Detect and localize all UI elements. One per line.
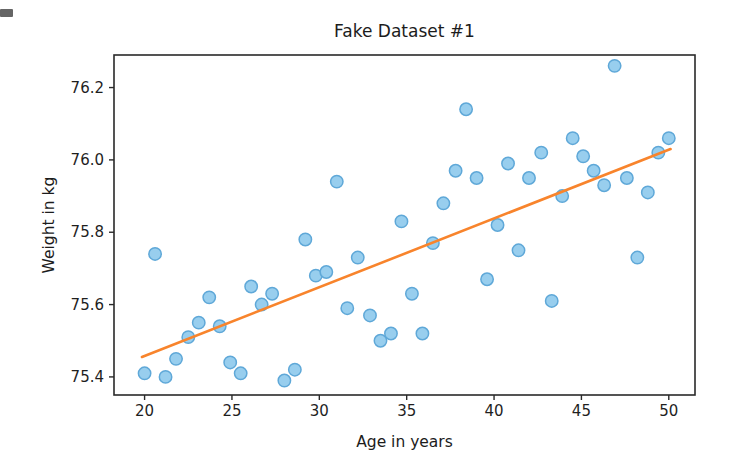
y-tick-label: 76.2 bbox=[71, 79, 104, 97]
scatter-point bbox=[608, 60, 620, 72]
scatter-point bbox=[320, 266, 332, 278]
scatter-point bbox=[266, 288, 278, 300]
scatter-point bbox=[234, 367, 246, 379]
scatter-point bbox=[341, 302, 353, 314]
x-tick-label: 25 bbox=[222, 402, 241, 420]
scatter-point bbox=[203, 291, 215, 303]
scatter-point bbox=[159, 371, 171, 383]
x-tick-label: 35 bbox=[397, 402, 416, 420]
figure: Fake Dataset #1 2025303540455075.475.675… bbox=[0, 0, 730, 470]
scatter-point bbox=[149, 248, 161, 260]
y-tick-label: 75.8 bbox=[71, 223, 104, 241]
scatter-point bbox=[385, 327, 397, 339]
x-tick-label: 20 bbox=[135, 402, 154, 420]
scatter-point bbox=[566, 132, 578, 144]
x-tick-label: 40 bbox=[485, 402, 504, 420]
scatter-point bbox=[437, 197, 449, 209]
scatter-point bbox=[481, 273, 493, 285]
x-tick-label: 50 bbox=[659, 402, 678, 420]
scatter-point bbox=[138, 367, 150, 379]
scatter-point bbox=[598, 179, 610, 191]
scatter-point bbox=[170, 353, 182, 365]
scatter-point bbox=[406, 288, 418, 300]
scatter-point bbox=[512, 244, 524, 256]
x-tick-label: 30 bbox=[310, 402, 329, 420]
scatter-point bbox=[535, 146, 547, 158]
x-axis-label: Age in years bbox=[114, 433, 695, 451]
scatter-point bbox=[577, 150, 589, 162]
scatter-point bbox=[364, 309, 376, 321]
x-tick-label: 45 bbox=[572, 402, 591, 420]
plot-svg: 2025303540455075.475.675.876.076.2 bbox=[0, 0, 730, 470]
scatter-point bbox=[631, 251, 643, 263]
scatter-point bbox=[245, 280, 257, 292]
scatter-point bbox=[663, 132, 675, 144]
scatter-point bbox=[491, 219, 503, 231]
scatter-point bbox=[416, 327, 428, 339]
scatter-point bbox=[331, 175, 343, 187]
scatter-point bbox=[449, 165, 461, 177]
y-axis-label: Weight in kg bbox=[40, 55, 58, 395]
scatter-point bbox=[278, 374, 290, 386]
scatter-point bbox=[470, 172, 482, 184]
scatter-point bbox=[523, 172, 535, 184]
scatter-point bbox=[395, 215, 407, 227]
scatter-point bbox=[352, 251, 364, 263]
scatter-point bbox=[502, 157, 514, 169]
scatter-point bbox=[621, 172, 633, 184]
scatter-point bbox=[289, 363, 301, 375]
y-tick-label: 75.4 bbox=[71, 368, 104, 386]
y-tick-label: 75.6 bbox=[71, 296, 104, 314]
scatter-point bbox=[299, 233, 311, 245]
scatter-point bbox=[224, 356, 236, 368]
scatter-point bbox=[587, 165, 599, 177]
scatter-point bbox=[460, 103, 472, 115]
scatter-point bbox=[642, 186, 654, 198]
y-tick-label: 76.0 bbox=[71, 151, 104, 169]
scatter-point bbox=[546, 295, 558, 307]
scatter-point bbox=[193, 316, 205, 328]
